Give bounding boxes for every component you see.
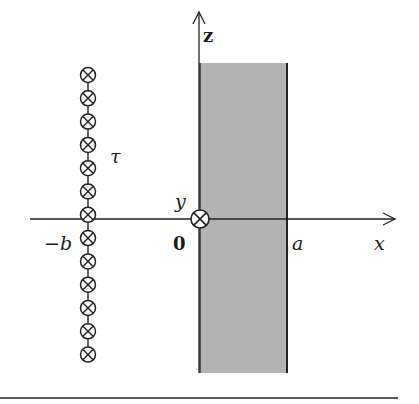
- x-axis-label: x: [374, 232, 385, 254]
- origin-label: 0: [173, 233, 186, 254]
- current-into-page-icon: [81, 347, 96, 362]
- current-into-page-icon: [81, 114, 96, 129]
- chain-position-label: −b: [44, 232, 72, 254]
- y-axis-into-page-icon: [191, 210, 209, 228]
- current-into-page-icon: [81, 254, 96, 269]
- conducting-slab: [200, 63, 287, 373]
- slab-edge-label: a: [292, 232, 303, 254]
- y-axis-label: y: [174, 190, 186, 212]
- current-into-page-icon: [81, 207, 96, 222]
- current-into-page-icon: [81, 137, 96, 152]
- current-into-page-icon: [81, 277, 96, 292]
- charge-density-label: τ: [110, 145, 121, 167]
- z-axis-label: z: [203, 25, 213, 46]
- current-into-page-icon: [81, 324, 96, 339]
- current-into-page-icon: [81, 301, 96, 316]
- current-into-page-icon: [81, 231, 96, 246]
- current-into-page-icon: [81, 184, 96, 199]
- current-into-page-icon: [81, 91, 96, 106]
- current-into-page-icon: [81, 68, 96, 83]
- diagram-canvas: z x y 0 a −b τ: [0, 0, 419, 404]
- line-current-chain: [81, 68, 96, 363]
- current-into-page-icon: [81, 161, 96, 176]
